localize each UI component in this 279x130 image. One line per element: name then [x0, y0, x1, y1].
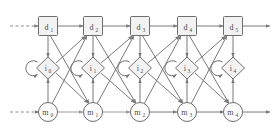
node-d-2: d 2 [84, 17, 103, 36]
node-i-3-sub: 3 [187, 68, 190, 74]
node-d-1-label: d [45, 23, 49, 32]
node-m-2: m 2 [131, 103, 150, 122]
node-m-2-label: m [134, 108, 141, 117]
node-d-4-label: d [184, 23, 188, 32]
node-i-2: i 2 [129, 57, 152, 79]
node-m-4: m 4 [224, 103, 243, 122]
node-m-3: m 3 [178, 103, 197, 122]
node-m-4-label: m [227, 108, 234, 117]
node-i-4: i 4 [222, 57, 245, 79]
node-i-2-sub: 2 [140, 68, 143, 74]
node-m-1-label: m [87, 108, 94, 117]
node-i-3: i 3 [176, 57, 199, 79]
node-d-5: d 5 [224, 17, 243, 36]
self-loop-i-4 [211, 61, 223, 76]
node-i-1-sub: 1 [93, 68, 96, 74]
node-d-2-label: d [90, 23, 94, 32]
node-m-0-label: m [42, 108, 49, 117]
diagram-canvas: d 1 d 2 d 3 d 4 d 5 i 0 i [0, 0, 279, 130]
node-m-4-sub: 4 [235, 112, 238, 118]
node-d-5-label: d [230, 23, 234, 32]
node-m-1-sub: 1 [95, 112, 98, 118]
node-i-1: i 1 [82, 57, 105, 79]
node-m-1: m 1 [84, 103, 103, 122]
node-d-4-sub: 4 [190, 27, 193, 33]
network-diagram: d 1 d 2 d 3 d 4 d 5 i 0 i [0, 0, 279, 130]
self-loop-i-1 [71, 61, 83, 76]
node-m-3-label: m [181, 108, 188, 117]
node-d-5-sub: 5 [236, 27, 239, 33]
self-loop-i-0 [26, 61, 38, 76]
node-d-1: d 1 [39, 17, 58, 36]
self-loop-i-3 [165, 61, 177, 76]
self-loop-i-2 [118, 61, 130, 76]
node-i-0-sub: 0 [48, 68, 51, 74]
node-d-1-sub: 1 [51, 27, 54, 33]
node-i-0: i 0 [37, 57, 60, 79]
node-d-3: d 3 [131, 17, 150, 36]
node-m-2-sub: 2 [142, 112, 145, 118]
node-m-0: m 0 [39, 103, 58, 122]
node-m-0-sub: 0 [50, 112, 53, 118]
node-i-4-sub: 4 [233, 68, 236, 74]
node-d-4: d 4 [178, 17, 197, 36]
node-d-3-label: d [137, 23, 141, 32]
node-d-3-sub: 3 [143, 27, 146, 33]
node-m-3-sub: 3 [189, 112, 192, 118]
node-d-2-sub: 2 [96, 27, 99, 33]
